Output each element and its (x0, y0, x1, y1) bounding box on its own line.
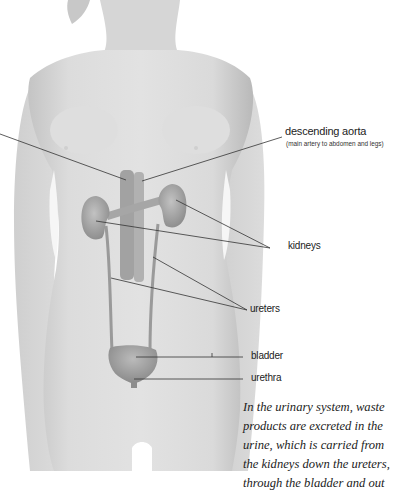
leg-gap (132, 442, 152, 471)
label-kidneys: kidneys (288, 240, 321, 251)
caption-line: In the urinary system, waste (243, 398, 396, 417)
label-descending-aorta: descending aorta (285, 125, 366, 137)
neck (100, 0, 180, 52)
hair (67, 0, 90, 24)
urethra (131, 382, 137, 388)
chest-left (50, 106, 118, 154)
caption-line: through the bladder and out (243, 474, 396, 493)
label-aorta-note: (main artery to abdomen and legs) (286, 140, 384, 147)
caption: In the urinary system, waste products ar… (243, 398, 396, 493)
label-urethra: urethra (251, 372, 281, 383)
caption-line: the kidneys down the ureters, (243, 455, 396, 474)
label-bladder: bladder (251, 350, 283, 361)
caption-line: products are excreted in the (243, 417, 396, 436)
caption-line: urine, which is carried from (243, 436, 396, 455)
label-ureters: ureters (250, 303, 280, 314)
